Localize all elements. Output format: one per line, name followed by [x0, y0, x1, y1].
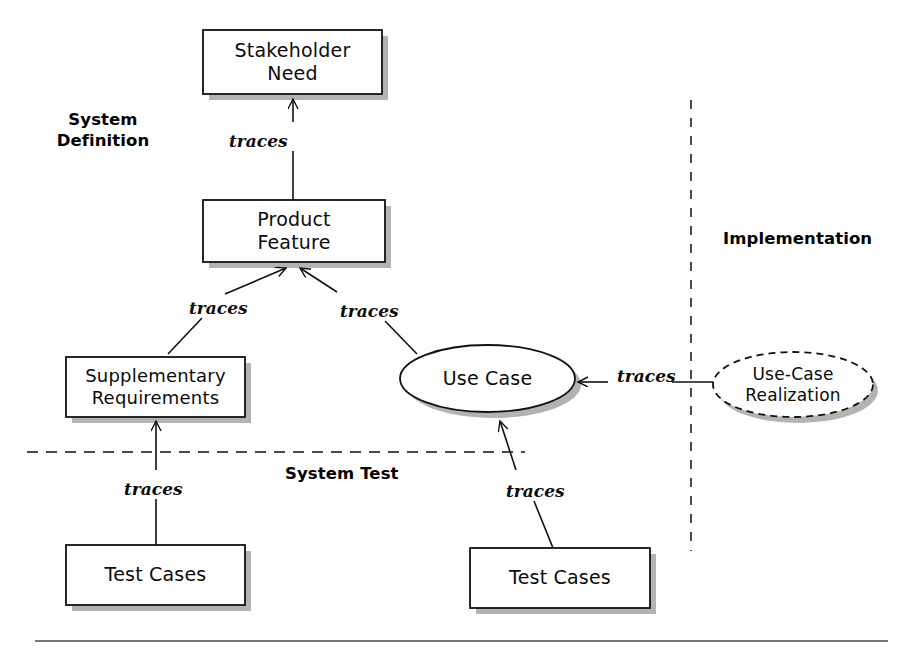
- zone-label-system-test: System Test: [285, 464, 425, 485]
- zone-label-system-definition: System Definition: [43, 110, 163, 151]
- edge-label-feature-to-need: traces: [229, 131, 288, 151]
- edge-label-testcases-left-to-supp: traces: [124, 479, 183, 499]
- edge-label-usecase-to-feature: traces: [340, 301, 399, 321]
- node-test-cases-right[interactable]: [470, 548, 650, 608]
- zone-label-implementation: Implementation: [723, 229, 893, 250]
- diagram-vector-layer: [0, 0, 906, 653]
- node-supplementary-requirements[interactable]: [66, 357, 245, 417]
- edge-label-realization-to-usecase: traces: [617, 366, 676, 386]
- edge-label-testcases-right-to-usecase: traces: [506, 481, 565, 501]
- node-product-feature[interactable]: [203, 200, 385, 262]
- edge-label-supp-to-feature: traces: [189, 298, 248, 318]
- diagram-canvas: Stakeholder Need Product Feature Supplem…: [0, 0, 906, 653]
- shape-shadows: [72, 36, 878, 614]
- node-stakeholder-need[interactable]: [203, 30, 382, 94]
- node-use-case[interactable]: [400, 345, 575, 412]
- node-use-case-realization[interactable]: [713, 352, 873, 417]
- node-test-cases-left[interactable]: [66, 545, 245, 605]
